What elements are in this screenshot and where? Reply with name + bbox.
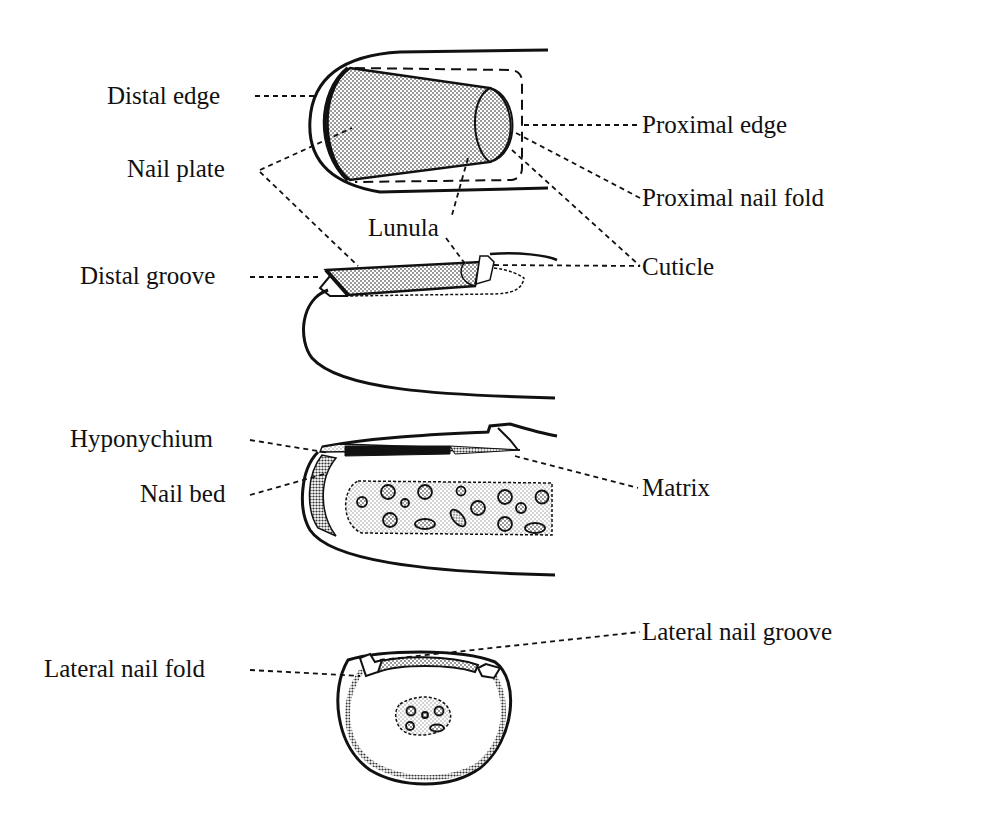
label-lunula: Lunula	[368, 214, 439, 242]
label-nail-plate: Nail plate	[127, 155, 225, 183]
leader-lines	[250, 96, 640, 676]
side-view-fingertip	[304, 253, 557, 398]
label-lateral-nail-groove: Lateral nail groove	[642, 618, 832, 646]
diagram-drawing	[0, 0, 1000, 834]
label-hyponychium: Hyponychium	[70, 425, 213, 453]
label-lateral-nail-fold: Lateral nail fold	[44, 655, 205, 683]
nail-anatomy-diagram: Distal edge Nail plate Proximal edge Pro…	[0, 0, 1000, 834]
label-proximal-edge: Proximal edge	[642, 111, 787, 139]
longitudinal-section-fingertip	[302, 424, 557, 575]
top-view-fingertip	[310, 50, 548, 192]
label-cuticle: Cuticle	[642, 253, 714, 281]
label-nail-bed: Nail bed	[140, 480, 225, 508]
label-distal-groove: Distal groove	[80, 262, 215, 290]
label-distal-edge: Distal edge	[107, 82, 220, 110]
label-matrix: Matrix	[642, 474, 710, 502]
cross-section-fingertip	[338, 652, 511, 784]
label-proximal-nail-fold: Proximal nail fold	[642, 184, 824, 212]
